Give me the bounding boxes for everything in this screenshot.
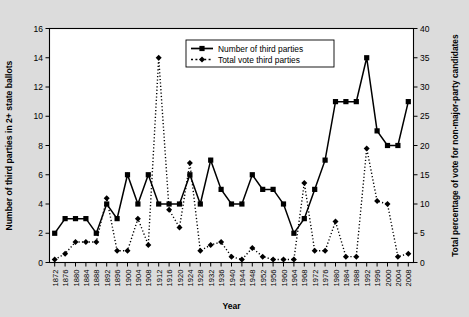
x-tick-label: 1984 [342,270,351,287]
data-point-square [375,128,380,133]
data-point-square [406,99,411,104]
x-tick-label: 1944 [238,270,247,287]
data-point-square [250,172,255,177]
y-right-tick-label: 5 [420,228,425,238]
data-point-square [395,143,400,148]
data-point-square [208,158,213,163]
y-right-axis-label: Total percentage of vote for non-major-p… [450,34,460,257]
y-right-tick-label: 20 [420,141,430,151]
y-left-tick-label: 16 [34,24,44,34]
x-tick-label: 1908 [144,270,153,287]
data-point-square [291,231,296,236]
x-tick-label: 1900 [124,270,133,287]
x-tick-label: 1888 [92,270,101,287]
data-point-square [323,158,328,163]
data-point-square [198,201,203,206]
legend-label: Total vote third parties [218,55,300,65]
x-tick-label: 1956 [269,270,278,287]
x-tick-label: 1988 [352,270,361,287]
y-right-tick-label: 10 [420,199,430,209]
x-axis-label: Year [222,301,241,311]
y-right-tick-label: 0 [420,258,425,268]
data-point-square [135,201,140,206]
x-tick-label: 1980 [332,270,341,287]
y-left-tick-label: 0 [38,258,43,268]
y-right-tick-label: 30 [420,82,430,92]
x-tick-label: 1964 [290,270,299,287]
x-tick-label: 1960 [280,270,289,287]
data-point-square [63,216,68,221]
x-tick-label: 2008 [404,270,413,287]
y-right-tick-label: 25 [420,111,430,121]
data-point-square [343,99,348,104]
data-point-square [115,216,120,221]
data-point-square [219,187,224,192]
x-tick-label: 1876 [61,270,70,287]
x-tick-label: 2004 [394,270,403,287]
legend-marker-square [199,46,204,51]
y-left-tick-label: 8 [38,141,43,151]
data-point-square [177,201,182,206]
y-left-tick-label: 12 [34,82,44,92]
x-tick-label: 1992 [363,270,372,287]
y-left-axis-label: Number of third parties in 2+ state ball… [4,60,14,230]
x-tick-label: 1940 [228,270,237,287]
x-tick-label: 1936 [217,270,226,287]
data-point-square [385,143,390,148]
x-tick-label: 1928 [196,270,205,287]
data-point-square [260,187,265,192]
x-tick-label: 1968 [300,270,309,287]
x-tick-label: 1880 [72,270,81,287]
chart-figure: 0246810121416051015202530354018721876188… [0,0,469,317]
x-tick-label: 1976 [321,270,330,287]
x-tick-label: 1896 [113,270,122,287]
data-point-square [239,201,244,206]
data-point-square [229,201,234,206]
x-tick-label: 1920 [176,270,185,287]
x-tick-label: 1892 [103,270,112,287]
y-left-tick-label: 2 [38,228,43,238]
x-tick-label: 1912 [155,270,164,287]
data-point-square [156,201,161,206]
data-point-square [281,201,286,206]
x-tick-label: 1872 [51,270,60,287]
data-point-square [125,172,130,177]
x-tick-label: 2000 [384,270,393,287]
x-tick-label: 1948 [248,270,257,287]
y-left-tick-label: 4 [38,199,43,209]
x-tick-label: 1884 [82,270,91,287]
x-tick-label: 1916 [165,270,174,287]
data-point-square [302,216,307,221]
y-right-tick-label: 40 [420,24,430,34]
x-tick-label: 1972 [311,270,320,287]
x-tick-label: 1924 [186,270,195,287]
y-left-tick-label: 14 [34,53,44,63]
y-right-tick-label: 15 [420,170,430,180]
data-point-square [312,187,317,192]
chart-canvas: 0246810121416051015202530354018721876188… [0,0,469,317]
x-tick-label: 1952 [259,270,268,287]
data-point-square [52,231,57,236]
x-tick-label: 1996 [373,270,382,287]
data-point-square [364,55,369,60]
legend-label: Number of third parties [218,44,303,54]
data-point-square [146,172,151,177]
data-point-square [333,99,338,104]
data-point-square [83,216,88,221]
data-point-square [73,216,78,221]
y-left-tick-label: 6 [38,170,43,180]
x-tick-label: 1932 [207,270,216,287]
x-tick-label: 1904 [134,270,143,287]
y-right-tick-label: 35 [420,53,430,63]
data-point-square [354,99,359,104]
y-left-tick-label: 10 [34,111,44,121]
data-point-square [271,187,276,192]
